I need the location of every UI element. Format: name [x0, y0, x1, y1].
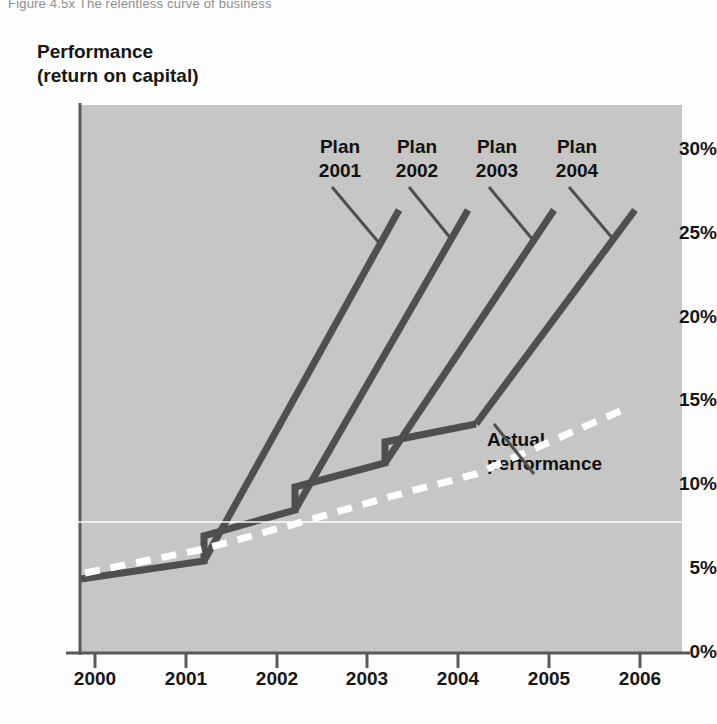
plan-2001-leader-line — [332, 187, 380, 244]
plan-2004-leader-line — [569, 187, 614, 240]
actual-baseline-solid-line — [81, 424, 476, 579]
plan-2002-leader-line — [409, 187, 452, 240]
plan-2003-leader-line — [489, 187, 533, 240]
axis-lines — [66, 103, 690, 655]
chart-figure: Performance(return on capital) 0% 5% 10%… — [0, 0, 717, 724]
plan-lines-group — [81, 210, 635, 579]
plan-2004-line — [476, 210, 635, 424]
x-axis-ticks — [95, 653, 640, 668]
plan-leader-lines — [332, 187, 614, 244]
actual-performance-dashed-line — [85, 408, 627, 573]
chart-svg — [0, 0, 717, 724]
page-fold-artifact — [0, 521, 717, 523]
